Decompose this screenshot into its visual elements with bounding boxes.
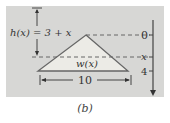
axis-label-0: 0 [141,29,148,42]
height-label: h(x) = 3 + x [10,27,72,38]
arrow-down-icon [35,51,39,56]
axis-label-x: x [141,51,147,62]
figure-caption: (b) [0,102,170,115]
axis-label-4: 4 [141,66,147,77]
arrow-right-icon [125,78,130,82]
axis-arrow-down-icon [150,90,156,96]
arrow-up-icon [35,9,39,13]
width-label: w(x) [76,58,98,69]
base-label: 10 [78,74,92,87]
arrow-left-icon [41,78,46,82]
